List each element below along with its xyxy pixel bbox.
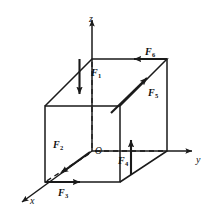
figure-canvas	[0, 0, 214, 215]
axis-label-z: z	[89, 14, 93, 24]
cube-top-face	[45, 59, 167, 106]
force-label-F2-base: F	[53, 139, 60, 150]
origin-label: O	[95, 147, 102, 157]
force-arrow-F5	[111, 78, 147, 113]
force-label-F6-sub: 6	[152, 51, 155, 58]
force-label-F5-base: F	[148, 87, 155, 98]
cube-visible-edges	[45, 59, 167, 182]
force-label-F1-base: F	[91, 67, 98, 78]
axis-label-x: x	[30, 196, 34, 206]
axis-label-y: y	[196, 155, 200, 165]
force-label-F3: F3	[58, 188, 68, 198]
force-label-F5-sub: 5	[155, 92, 158, 99]
force-label-F5: F5	[148, 88, 158, 98]
force-label-F2-sub: 2	[60, 144, 63, 151]
force-label-F1-sub: 1	[98, 72, 101, 79]
force-label-F4-sub: 4	[125, 160, 128, 167]
force-label-F2: F2	[53, 140, 63, 150]
force-arrow-F2	[61, 152, 90, 173]
force-label-F3-sub: 3	[65, 192, 68, 199]
force-label-F6: F6	[145, 47, 155, 57]
force-label-F4-base: F	[118, 155, 125, 166]
force-label-F4: F4	[118, 156, 128, 166]
force-label-F6-base: F	[145, 46, 152, 57]
force-cube-figure: z y x O F1 F2 F3 F4 F5 F6	[0, 0, 214, 215]
force-label-F3-base: F	[58, 187, 65, 198]
force-label-F1: F1	[91, 68, 101, 78]
